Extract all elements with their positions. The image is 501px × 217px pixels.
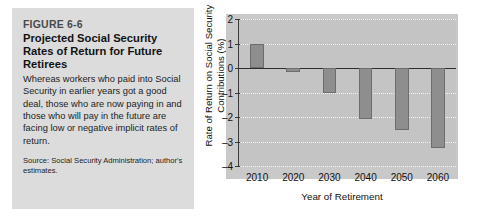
gridline [239, 166, 456, 167]
figure-container: FIGURE 6-6 Projected Social Security Rat… [0, 0, 501, 217]
figure-number: FIGURE 6-6 [23, 18, 184, 31]
y-axis-tick-label: 0 [227, 63, 233, 74]
y-axis-tick-mark [235, 44, 240, 45]
y-axis-tick-label: –2 [222, 112, 233, 123]
gridline [239, 44, 456, 45]
chart-panel: Rate of Return on Social Security Contri… [196, 8, 458, 209]
y-axis-tick-label: 1 [227, 38, 233, 49]
figure-title: Projected Social Security Rates of Retur… [23, 32, 184, 72]
y-axis-tick-mark [235, 117, 240, 118]
bar-2020 [286, 68, 300, 72]
y-axis-tick-mark [235, 19, 240, 20]
figure-source: Source: Social Security Administration; … [23, 156, 184, 177]
x-axis-title: Year of Retirement [226, 191, 458, 202]
y-axis-tick-label: –3 [222, 136, 233, 147]
x-axis-tick-label: 2030 [318, 172, 340, 183]
y-axis-title: Rate of Return on Social Security Contri… [203, 1, 226, 151]
zero-line [239, 68, 456, 69]
bar-2040 [359, 68, 373, 119]
gridline [239, 19, 456, 20]
gridline [239, 117, 456, 118]
x-axis-tick-label: 2010 [246, 172, 268, 183]
bar-2010 [250, 44, 264, 69]
figure-caption-panel: FIGURE 6-6 Projected Social Security Rat… [12, 8, 194, 209]
x-axis-tick-label: 2060 [427, 172, 449, 183]
plot-area: 210–1–2–3–4201020202030204020502060 [238, 19, 456, 166]
gridline [239, 142, 456, 143]
bar-2030 [323, 68, 337, 93]
plot-block: 210–1–2–3–4201020202030204020502060 [226, 14, 458, 179]
y-axis-title-line2: Contributions (%) [215, 39, 226, 113]
y-axis-title-line1: Rate of Return on Social Security [203, 5, 214, 147]
y-axis-tick-mark [235, 166, 240, 167]
x-axis-tick-label: 2020 [282, 172, 304, 183]
y-axis-tick-mark [235, 142, 240, 143]
y-axis-tick-mark [235, 93, 240, 94]
y-axis-tick-label: –4 [222, 161, 233, 172]
bar-2050 [395, 68, 409, 130]
x-axis-tick-label: 2040 [354, 172, 376, 183]
bar-2060 [431, 68, 445, 148]
gridline [239, 93, 456, 94]
x-axis-tick-label: 2050 [391, 172, 413, 183]
y-axis-tick-label: –1 [222, 87, 233, 98]
y-axis-tick-label: 2 [227, 14, 233, 25]
figure-description: Whereas workers who paid into Social Sec… [23, 73, 184, 147]
